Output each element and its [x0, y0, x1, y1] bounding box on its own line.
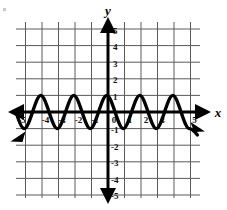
y-tick-neg2: -2 — [111, 142, 119, 152]
y-tick-neg3: -3 — [111, 158, 119, 168]
scan-speck — [3, 8, 6, 11]
y-tick-neg4: -4 — [111, 175, 119, 185]
y-tick-pos4: 4 — [113, 42, 118, 52]
coordinate-plane-svg: -5 -4 -3 -2 -1 0 1 2 3 5 5 4 3 2 1 -1 -2… — [0, 0, 227, 210]
x-tick-neg3: -3 — [58, 115, 66, 125]
x-tick-neg2: -2 — [75, 115, 83, 125]
x-tick-pos1: 1 — [128, 115, 133, 125]
y-tick-pos3: 3 — [113, 59, 118, 69]
curve-left-arrowhead — [11, 132, 26, 143]
x-tick-pos5: 5 — [192, 115, 197, 125]
y-tick-pos2: 2 — [113, 75, 118, 85]
x-tick-pos2: 2 — [144, 115, 149, 125]
x-axis-right-arrowhead — [195, 104, 211, 120]
x-tick-zero: 0 — [112, 115, 117, 125]
x-tick-neg1: -1 — [91, 115, 99, 125]
y-tick-pos5: 5 — [113, 26, 118, 36]
x-axis-label: x — [214, 105, 222, 120]
y-tick-neg1: -1 — [111, 125, 119, 135]
graph-figure: -5 -4 -3 -2 -1 0 1 2 3 5 5 4 3 2 1 -1 -2… — [0, 0, 227, 210]
y-tick-pos1: 1 — [113, 92, 118, 102]
y-tick-neg5: -5 — [111, 191, 119, 201]
y-axis-label: y — [103, 3, 111, 18]
x-tick-neg4: -4 — [42, 115, 50, 125]
x-tick-neg5: -5 — [18, 115, 26, 125]
x-tick-pos3: 3 — [160, 115, 165, 125]
